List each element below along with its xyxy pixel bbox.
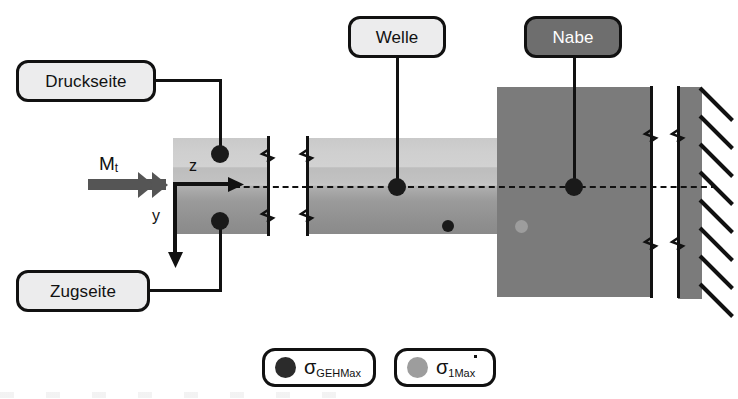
leader-zugseite-vertical	[219, 222, 222, 292]
torque-arrow-head-icon	[138, 170, 178, 200]
callout-nabe[interactable]: Nabe	[524, 16, 622, 58]
callout-druckseite[interactable]: Druckseite	[16, 60, 156, 102]
leader-zugseite-horizontal	[148, 289, 222, 292]
legend-label-geh: σGEHMax	[304, 357, 361, 379]
geh-marker-tension-side	[211, 212, 229, 230]
diagram-canvas: Mt z y Druckseite Zugseite Welle Nabe σG…	[0, 0, 738, 399]
legend-artifact-dot	[474, 355, 477, 358]
torque-subscript: t	[115, 161, 118, 175]
callout-zugseite[interactable]: Zugseite	[16, 270, 150, 312]
legend-item-s1[interactable]: σ1Max	[394, 348, 496, 387]
legend-subscript-s1: 1Max	[448, 367, 475, 379]
torque-symbol: M	[99, 153, 115, 174]
leader-druckseite-vertical	[219, 79, 222, 151]
leader-welle-vertical	[396, 57, 399, 187]
axis-y-line	[173, 182, 177, 258]
legend-item-geh[interactable]: σGEHMax	[262, 348, 376, 387]
geh-marker-shaft-center	[388, 178, 406, 196]
axis-z-line	[173, 182, 235, 186]
scan-artifact	[0, 392, 360, 398]
legend-sigma-s1: σ	[436, 356, 448, 378]
callout-welle-label: Welle	[376, 29, 419, 46]
callout-druckseite-label: Druckseite	[45, 73, 126, 90]
geh-marker-hub-center	[565, 178, 583, 196]
callout-zugseite-label: Zugseite	[50, 283, 116, 300]
legend-dot-geh	[275, 357, 296, 378]
legend-label-s1: σ1Max	[436, 357, 475, 379]
axis-y-arrowhead-icon	[167, 252, 184, 270]
axis-z-arrowhead-icon	[228, 176, 246, 193]
leader-nabe-vertical	[573, 57, 576, 187]
legend-dot-s1	[407, 357, 428, 378]
axis-y-label: y	[152, 208, 160, 224]
torque-label: Mt	[99, 154, 118, 174]
geh-marker-shaft-lower	[442, 220, 454, 232]
axis-z-label: z	[189, 158, 197, 174]
break-zigzag-right	[642, 90, 690, 294]
legend-subscript-geh: GEHMax	[316, 367, 361, 379]
callout-nabe-label: Nabe	[552, 29, 593, 46]
geh-marker-pressure-side	[211, 145, 229, 163]
leader-druckseite-horizontal	[154, 79, 222, 82]
callout-welle[interactable]: Welle	[348, 16, 446, 58]
break-zigzag-left	[258, 140, 316, 232]
s1-marker-hub-lower	[515, 220, 528, 233]
legend-sigma-geh: σ	[304, 356, 316, 378]
